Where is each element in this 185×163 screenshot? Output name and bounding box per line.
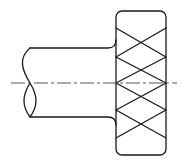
knurled-knob-drawing [0,0,185,163]
